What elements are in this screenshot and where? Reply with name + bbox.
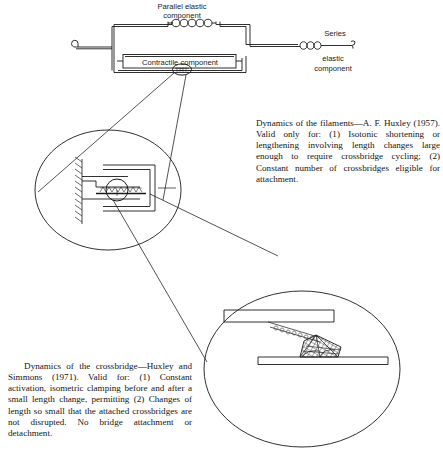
series-elastic-spring — [300, 42, 329, 50]
caption-filaments: Dynamics of the filaments—A. F. Huxley (… — [256, 118, 440, 185]
filament-inset-outline — [35, 130, 181, 250]
crossbridge-head — [300, 335, 341, 357]
series-elastic-label-line3: component — [314, 64, 352, 73]
crossbridge-detail-inset — [204, 291, 400, 447]
lower-filament — [258, 357, 388, 365]
filament-sliding-inset — [35, 130, 181, 250]
hook-left-icon — [72, 40, 112, 49]
three-element-muscle-model: Parallel elastic component Series elasti… — [72, 2, 355, 75]
hook-right-icon — [329, 41, 355, 49]
upper-filament — [224, 310, 334, 322]
crossbridge-inset-outline — [204, 291, 400, 447]
contractile-component-label: Contractile component — [142, 58, 219, 67]
hatched-wall — [75, 157, 82, 224]
parallel-elastic-label-line1: Parallel elastic — [158, 2, 207, 11]
leader-lines-filament-to-crossbridge-inset — [113, 194, 278, 362]
series-elastic-label-line1: Series — [324, 29, 346, 38]
caption-crossbridge: Dynamics of the crossbridge—Huxley and S… — [8, 361, 192, 439]
series-elastic-label-line2: elastic — [322, 54, 344, 63]
leader-lines-model-to-filament-inset — [38, 73, 186, 200]
filament-highlight-circle — [106, 179, 128, 201]
